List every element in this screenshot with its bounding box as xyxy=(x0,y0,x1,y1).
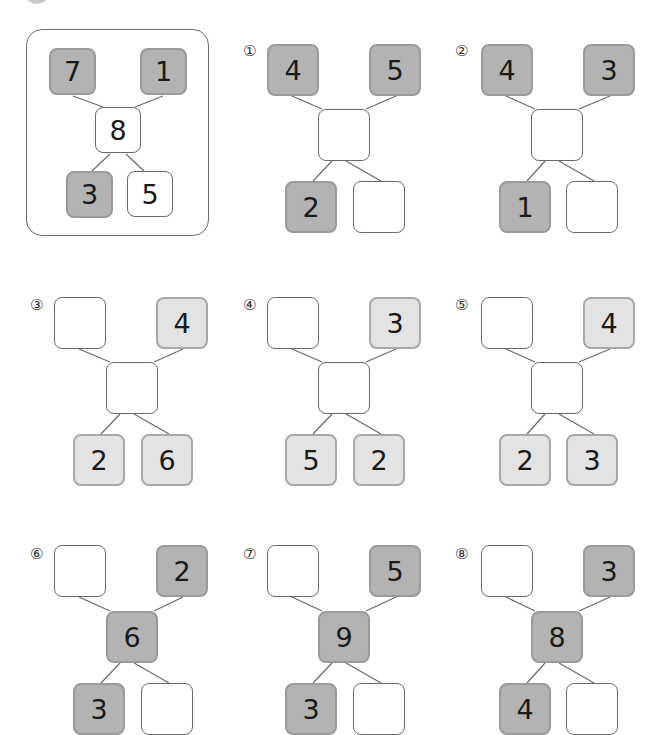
number-box-bottom-right: 2 xyxy=(353,434,405,486)
number-box-top-left: 4 xyxy=(267,44,319,96)
number-box-top-right: 5 xyxy=(369,545,421,597)
example-middle-box: 8 xyxy=(95,107,141,153)
number-box-bottom-left: 2 xyxy=(285,181,337,233)
answer-box-bottom-right[interactable] xyxy=(353,683,405,735)
number-box-top-right: 3 xyxy=(369,297,421,349)
answer-box-bottom-right[interactable] xyxy=(353,181,405,233)
number-box-top-right: 2 xyxy=(156,545,208,597)
answer-box-middle[interactable] xyxy=(106,362,158,414)
number-box-top-right: 5 xyxy=(369,44,421,96)
number-box-bottom-left: 3 xyxy=(285,683,337,735)
answer-box-top-left[interactable] xyxy=(267,545,319,597)
example-bottom-left-box: 3 xyxy=(66,171,113,218)
answer-box-top-left[interactable] xyxy=(481,545,533,597)
number-box-bottom-right: 3 xyxy=(566,434,618,486)
answer-box-top-left[interactable] xyxy=(54,545,106,597)
answer-box-top-left[interactable] xyxy=(481,297,533,349)
number-box-bottom-left: 2 xyxy=(499,434,551,486)
number-box-bottom-left: 2 xyxy=(73,434,125,486)
number-box-bottom-left: 1 xyxy=(499,181,551,233)
number-box-bottom-left: 5 xyxy=(285,434,337,486)
problem-number-label: ② xyxy=(455,44,468,59)
number-box-bottom-right: 6 xyxy=(141,434,193,486)
answer-box-middle[interactable] xyxy=(531,109,583,161)
number-box-top-right: 4 xyxy=(583,297,635,349)
answer-box-middle[interactable] xyxy=(531,362,583,414)
number-box-middle: 6 xyxy=(106,611,158,663)
problem-number-label: ① xyxy=(243,44,256,59)
problem-number-label: ④ xyxy=(243,298,256,313)
answer-box-top-left[interactable] xyxy=(54,297,106,349)
answer-box-bottom-right[interactable] xyxy=(566,683,618,735)
problem-number-label: ⑤ xyxy=(455,298,468,313)
number-box-middle: 9 xyxy=(318,611,370,663)
answer-box-middle[interactable] xyxy=(318,362,370,414)
number-box-top-right: 3 xyxy=(583,545,635,597)
problem-number-label: ⑦ xyxy=(243,547,256,562)
number-box-top-left: 4 xyxy=(481,44,533,96)
number-box-top-right: 4 xyxy=(156,297,208,349)
number-box-middle: 8 xyxy=(531,611,583,663)
problem-number-label: ③ xyxy=(30,298,43,313)
header-marker xyxy=(26,0,48,4)
example-bottom-right-box: 5 xyxy=(127,171,173,217)
number-box-bottom-left: 4 xyxy=(499,683,551,735)
number-box-bottom-left: 3 xyxy=(73,683,125,735)
problem-number-label: ⑧ xyxy=(455,547,468,562)
example-top-right-box: 1 xyxy=(140,48,187,95)
answer-box-bottom-right[interactable] xyxy=(141,683,193,735)
number-box-top-right: 3 xyxy=(583,44,635,96)
answer-box-bottom-right[interactable] xyxy=(566,181,618,233)
example-top-left-box: 7 xyxy=(49,48,96,95)
answer-box-top-left[interactable] xyxy=(267,297,319,349)
answer-box-middle[interactable] xyxy=(318,109,370,161)
problem-number-label: ⑥ xyxy=(30,547,43,562)
